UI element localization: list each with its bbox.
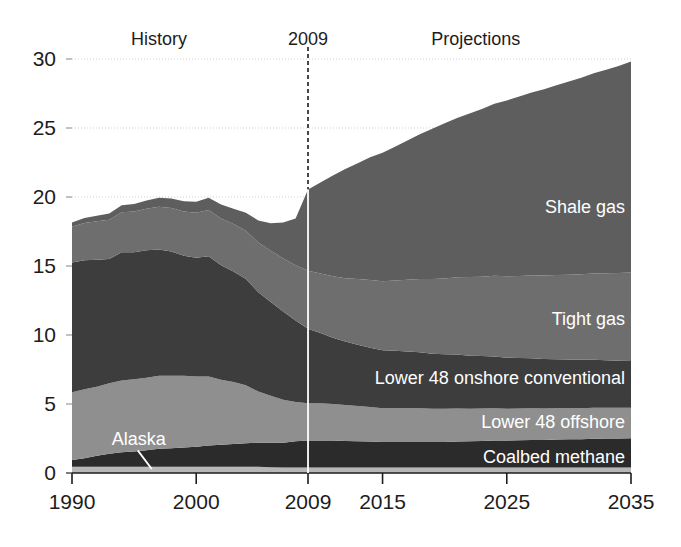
projections-label: Projections bbox=[431, 29, 520, 49]
x-tick-label-2000: 2000 bbox=[173, 490, 220, 513]
series-label-tight-gas: Tight gas bbox=[552, 309, 625, 329]
y-tick-label-25: 25 bbox=[33, 116, 56, 139]
x-tick-label-2015: 2015 bbox=[359, 490, 406, 513]
series-label-coalbed-methane: Coalbed methane bbox=[483, 447, 625, 467]
series-label-lower-48-offshore: Lower 48 offshore bbox=[481, 412, 625, 432]
alaska-label: Alaska bbox=[112, 429, 167, 449]
chart-canvas: 051015202530 199020002009201520252035 Hi… bbox=[0, 0, 681, 547]
x-tick-label-2035: 2035 bbox=[608, 490, 655, 513]
year-divider-label: 2009 bbox=[288, 29, 328, 49]
y-tick-label-0: 0 bbox=[44, 461, 56, 484]
x-tick-label-2025: 2025 bbox=[483, 490, 530, 513]
y-tick-label-15: 15 bbox=[33, 254, 56, 277]
history-label: History bbox=[131, 29, 187, 49]
y-tick-label-30: 30 bbox=[33, 47, 56, 70]
y-tick-label-10: 10 bbox=[33, 323, 56, 346]
y-tick-label-20: 20 bbox=[33, 185, 56, 208]
stacked-area-chart: 051015202530 199020002009201520252035 Hi… bbox=[0, 0, 681, 547]
series-label-shale-gas: Shale gas bbox=[545, 197, 625, 217]
x-tick-label-2009: 2009 bbox=[285, 490, 332, 513]
series-label-lower-48-onshore-conventional: Lower 48 onshore conventional bbox=[375, 368, 625, 388]
area-series-alaska bbox=[72, 467, 631, 473]
x-tick-label-1990: 1990 bbox=[49, 490, 96, 513]
y-tick-label-5: 5 bbox=[44, 392, 56, 415]
